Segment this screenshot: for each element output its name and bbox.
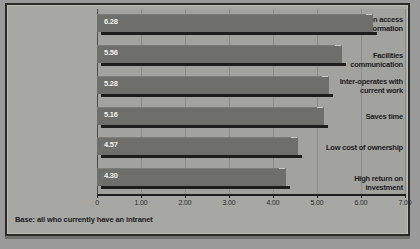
bar-shadow xyxy=(101,94,333,97)
bottom-strip xyxy=(5,236,410,239)
tick-mark-1 xyxy=(141,194,142,198)
bar-shadow xyxy=(101,63,346,66)
bar-container: 4.30 xyxy=(97,163,405,194)
bar-value-label: 4.30 xyxy=(104,171,118,180)
x-tick-label: 2.00 xyxy=(179,199,192,206)
tick-mark-3 xyxy=(229,194,230,198)
bar-container: 5.28 xyxy=(97,71,405,102)
bar-row: Saves time5.16 xyxy=(10,102,407,133)
bar-end-highlight xyxy=(279,168,285,169)
x-tick-label: 3.00 xyxy=(223,199,236,206)
bar-value-label: 6.28 xyxy=(104,17,118,26)
x-tick-label: 7.00 xyxy=(399,199,412,206)
chart-screenshot: Allow common access to information6.28Fa… xyxy=(0,0,420,249)
tick-mark-5 xyxy=(317,194,318,198)
tick-mark-4 xyxy=(273,194,274,198)
bar-shadow xyxy=(101,155,302,158)
bar xyxy=(97,14,373,32)
bar-row: High return on investment4.30 xyxy=(10,163,407,194)
bar xyxy=(97,76,329,94)
base-note: Base: all who currently have an intranet xyxy=(15,215,153,224)
tick-mark-7 xyxy=(405,194,406,198)
bar-container: 6.28 xyxy=(97,9,405,40)
bar-chart: Allow common access to information6.28Fa… xyxy=(10,9,407,209)
bar xyxy=(97,107,324,125)
tick-mark-2 xyxy=(185,194,186,198)
x-tick-label: 0 xyxy=(95,199,99,206)
bar-end-highlight xyxy=(291,137,297,138)
bar xyxy=(97,45,342,63)
bar-end-highlight xyxy=(317,107,323,108)
bar-value-label: 5.16 xyxy=(104,110,118,119)
bar-value-label: 4.57 xyxy=(104,140,118,149)
bar-row: Inter-operates with current work5.28 xyxy=(10,71,407,102)
bar-shadow xyxy=(101,125,328,128)
x-axis-line xyxy=(97,194,405,196)
chart-frame: Allow common access to information6.28Fa… xyxy=(5,3,410,236)
tick-mark-6 xyxy=(361,194,362,198)
bar-value-label: 5.56 xyxy=(104,48,118,57)
bar-row: Low cost of ownership4.57 xyxy=(10,132,407,163)
bar-shadow xyxy=(101,32,377,35)
bar xyxy=(97,168,286,186)
bar-container: 5.16 xyxy=(97,102,405,133)
x-tick-label: 6.00 xyxy=(355,199,368,206)
bar-container: 5.56 xyxy=(97,40,405,71)
bar-container: 4.57 xyxy=(97,132,405,163)
x-tick-label: 1.00 xyxy=(135,199,148,206)
bar-shadow xyxy=(101,186,290,189)
x-tick-label: 4.00 xyxy=(267,199,280,206)
bar xyxy=(97,137,298,155)
x-tick-label: 5.00 xyxy=(311,199,324,206)
bar-row: Allow common access to information6.28 xyxy=(10,9,407,40)
bar-end-highlight xyxy=(322,76,328,77)
bar-row: Facilities communication5.56 xyxy=(10,40,407,71)
bar-value-label: 5.28 xyxy=(104,79,118,88)
bar-end-highlight xyxy=(366,14,372,15)
tick-mark-0 xyxy=(97,194,98,198)
bar-end-highlight xyxy=(335,45,341,46)
